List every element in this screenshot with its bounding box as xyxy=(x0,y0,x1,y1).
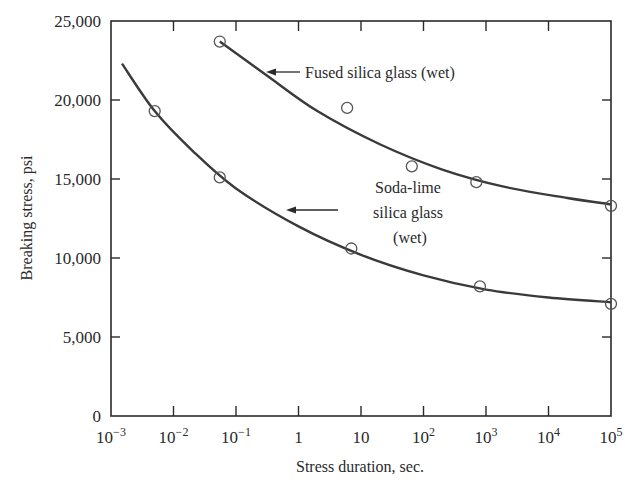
y-tick-label: 5,000 xyxy=(63,328,101,347)
x-tick-label: 105 xyxy=(600,425,623,447)
arrowhead-icon xyxy=(286,207,296,214)
x-tick-label: 10−1 xyxy=(221,425,251,447)
y-tick-label: 25,000 xyxy=(54,12,101,31)
y-tick-label: 10,000 xyxy=(54,249,101,268)
data-point-marker xyxy=(471,177,482,188)
fused-label: Fused silica glass (wet) xyxy=(305,64,455,82)
x-tick-label: 103 xyxy=(475,425,498,447)
y-tick-label: 0 xyxy=(93,407,102,426)
x-tick-label: 104 xyxy=(537,425,560,447)
data-point-marker xyxy=(474,281,485,292)
soda-label-line2: silica glass xyxy=(373,204,443,222)
soda-annotation: Soda-lime silica glass (wet) xyxy=(286,179,443,247)
fused-annotation: Fused silica glass (wet) xyxy=(266,64,455,82)
y-axis-title: Breaking stress, psi xyxy=(18,155,36,280)
soda-label-line3: (wet) xyxy=(393,229,427,247)
x-tick-label: 10−2 xyxy=(159,425,189,447)
x-axis-title: Stress duration, sec. xyxy=(296,458,424,475)
y-tick-label: 15,000 xyxy=(54,170,101,189)
soda-label-line1: Soda-lime xyxy=(375,179,441,196)
x-tick-label: 102 xyxy=(412,425,435,447)
y-tick-label: 20,000 xyxy=(54,91,101,110)
x-tick-label: 10 xyxy=(353,428,370,447)
data-point-marker xyxy=(406,161,417,172)
data-point-marker xyxy=(342,102,353,113)
soda-lime-curve xyxy=(122,64,611,303)
chart: 05,00010,00015,00020,00025,000 10−310−21… xyxy=(0,0,626,483)
x-axis-ticks: 10−310−210−1110102103104105 xyxy=(96,21,622,447)
x-tick-label: 10−3 xyxy=(96,425,126,447)
x-tick-label: 1 xyxy=(294,428,303,447)
